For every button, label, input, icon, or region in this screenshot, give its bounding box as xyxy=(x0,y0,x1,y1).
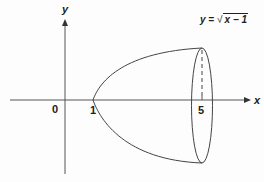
tick-label-5: 5 xyxy=(198,105,204,116)
equation-radicand: x − 1 xyxy=(223,13,248,25)
diagram-canvas: y x 0 1 5 y = √x − 1 xyxy=(0,0,264,182)
equation-lhs: y = xyxy=(200,14,214,25)
y-axis-arrow-icon xyxy=(62,19,68,26)
tick-label-1: 1 xyxy=(90,105,96,116)
lower-curve xyxy=(93,100,202,163)
sqrt-icon: √ xyxy=(217,14,223,25)
x-axis-arrow-icon xyxy=(244,97,251,103)
equation-label: y = √x − 1 xyxy=(200,14,248,25)
y-axis-label: y xyxy=(62,4,68,15)
origin-label: 0 xyxy=(52,104,58,115)
solid-of-revolution-figure xyxy=(0,0,264,182)
upper-curve xyxy=(93,48,202,100)
x-axis-label: x xyxy=(254,95,260,106)
